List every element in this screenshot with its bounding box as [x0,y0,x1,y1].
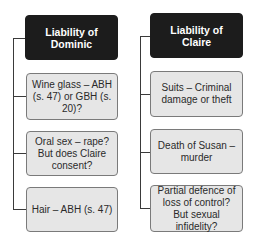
claire-connector-item-3 [140,208,150,209]
claire-item-1-label: Suits – Criminal damage or theft [155,82,238,106]
claire-header: Liability of Claire [150,13,243,58]
claire-connector-vertical [140,36,141,209]
dominic-connector-vertical [13,38,14,210]
claire-item-death-of-susan: Death of Susan – murder [150,129,243,174]
claire-connector-item-1 [140,94,150,95]
claire-connector-item-2 [140,152,150,153]
dominic-connector-item-3 [13,209,26,210]
claire-item-2-label: Death of Susan – murder [155,140,238,164]
dominic-connector-item-1 [13,96,26,97]
claire-header-label: Liability of Claire [155,24,238,48]
dominic-header-label: Liability of Dominic [30,26,113,50]
dominic-item-1-label: Wine glass – ABH (s. 47) or GBH (s. 20)? [31,79,113,115]
dominic-item-hair: Hair – ABH (s. 47) [26,187,118,232]
dominic-item-oral-sex: Oral sex – rape? But does Claire consent… [26,131,118,176]
dominic-item-wine-glass: Wine glass – ABH (s. 47) or GBH (s. 20)? [26,73,118,120]
claire-item-partial-defence: Partial defence of loss of control? But … [150,185,243,232]
claire-item-3-label: Partial defence of loss of control? But … [155,185,238,233]
dominic-connector-item-2 [13,153,26,154]
claire-item-suits: Suits – Criminal damage or theft [150,71,243,117]
dominic-item-2-label: Oral sex – rape? But does Claire consent… [31,136,113,172]
dominic-item-3-label: Hair – ABH (s. 47) [32,204,113,216]
claire-connector-header [140,36,150,37]
dominic-header: Liability of Dominic [25,15,118,60]
